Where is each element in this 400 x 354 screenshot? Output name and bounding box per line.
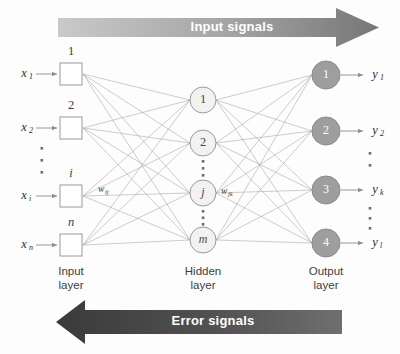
input-node-1-index: 1 <box>68 44 74 58</box>
hidden-node-j[interactable]: j <box>190 180 216 206</box>
input-node-i[interactable]: i x i <box>20 166 82 207</box>
error-signals-banner: Error signals <box>56 300 342 344</box>
weight-label-ij: w ij <box>98 184 109 194</box>
input-node-n-index: n <box>68 215 74 229</box>
weight-jk-symbol: w <box>221 186 228 196</box>
output-layer-ellipsis-upper-icon <box>369 152 372 167</box>
hidden-to-output-connections <box>216 75 312 243</box>
input-signal-2-label: x <box>20 120 27 134</box>
hidden-layer-caption-line2: layer <box>191 279 216 291</box>
input-signals-banner: Input signals <box>58 8 379 47</box>
output-node-2-index: 2 <box>323 123 329 137</box>
output-signal-1-subscript: 1 <box>380 73 384 82</box>
output-layer-ellipsis-lower-icon <box>369 207 372 230</box>
hidden-node-2-index: 2 <box>200 135 206 149</box>
input-to-hidden-connections <box>83 74 190 245</box>
output-signal-l-subscript: l <box>380 241 383 250</box>
output-signal-1-label: y <box>370 67 378 81</box>
hidden-node-1-index: 1 <box>200 92 206 106</box>
output-signal-l-label: y <box>370 235 378 249</box>
output-node-2[interactable]: 2 y 2 <box>312 117 384 145</box>
hidden-layer-group: 1 2 j m <box>185 87 221 291</box>
input-signal-1-label: x <box>20 66 27 80</box>
network-diagram-canvas: Input signals <box>0 0 400 354</box>
output-node-4-index: 4 <box>323 235 329 249</box>
output-layer-caption-line1: Output <box>309 265 344 277</box>
input-node-1[interactable]: 1 x 1 <box>20 44 82 85</box>
input-layer-group: 1 x 1 2 x 2 i <box>20 44 84 291</box>
input-signals-label: Input signals <box>191 19 274 34</box>
input-layer-caption-line2: layer <box>59 279 84 291</box>
input-node-1-box[interactable] <box>60 63 82 85</box>
output-signal-k-subscript: k <box>380 188 384 197</box>
hidden-layer-caption-line1: Hidden <box>185 265 221 277</box>
hidden-layer-ellipsis-upper-icon <box>202 160 205 177</box>
weight-jk-subscript: jk <box>227 190 233 197</box>
input-node-2-index: 2 <box>68 98 74 112</box>
input-node-2-box[interactable] <box>60 117 82 139</box>
input-layer-ellipsis-icon <box>41 147 44 174</box>
output-node-4[interactable]: 4 y l <box>312 229 383 257</box>
output-layer-group: 1 y 1 2 y 2 3 y k <box>309 61 384 291</box>
input-signal-n-label: x <box>20 237 27 251</box>
input-signal-i-label: x <box>20 188 27 202</box>
input-node-2[interactable]: 2 x 2 <box>20 98 82 139</box>
weight-ij-subscript: ij <box>105 188 109 195</box>
input-signal-i-subscript: i <box>29 194 31 203</box>
output-layer-caption-line2: layer <box>314 279 339 291</box>
error-signals-label: Error signals <box>172 313 255 328</box>
input-node-n-box[interactable] <box>60 234 82 256</box>
input-layer-caption-line1: Input <box>58 265 84 277</box>
output-node-3-index: 3 <box>323 182 329 196</box>
output-node-1-index: 1 <box>323 67 329 81</box>
weight-ij-symbol: w <box>98 184 105 194</box>
input-node-i-index: i <box>69 166 73 180</box>
output-node-3[interactable]: 3 y k <box>312 176 384 204</box>
hidden-node-2[interactable]: 2 <box>190 130 216 156</box>
input-node-i-box[interactable] <box>60 185 82 207</box>
input-signal-n-subscript: n <box>29 243 33 252</box>
output-signal-2-label: y <box>370 123 378 137</box>
input-signal-2-subscript: 2 <box>29 126 33 135</box>
hidden-node-m-index: m <box>199 232 208 246</box>
hidden-node-m[interactable]: m <box>190 227 216 253</box>
output-signal-2-subscript: 2 <box>380 129 384 138</box>
hidden-node-1[interactable]: 1 <box>190 87 216 113</box>
output-node-1[interactable]: 1 y 1 <box>312 61 384 89</box>
weight-label-jk: w jk <box>221 186 233 196</box>
neural-network-figure: Input signals <box>0 0 400 354</box>
output-signal-k-label: y <box>370 182 378 196</box>
input-node-n[interactable]: n x n <box>20 215 82 256</box>
input-signal-1-subscript: 1 <box>29 72 33 81</box>
hidden-layer-ellipsis-lower-icon <box>202 210 205 226</box>
